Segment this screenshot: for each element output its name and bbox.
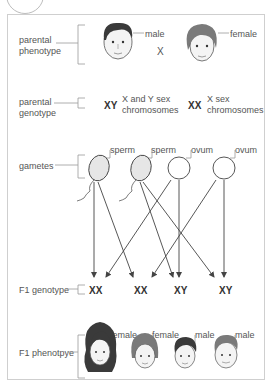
bracket (78, 98, 85, 108)
ovum-x-icon (213, 157, 235, 179)
bracket (78, 335, 85, 378)
male-parent-face-icon (104, 23, 132, 59)
f1-female-2-face-icon (131, 333, 158, 368)
bracket (78, 25, 85, 64)
inheritance-arrows (94, 180, 224, 277)
f1-male-2-face-icon (215, 335, 238, 368)
f1-female-1-face-icon (84, 322, 116, 372)
female-parent-face-icon (187, 24, 217, 61)
diagram-graphics (0, 0, 274, 389)
f1-male-1-face-icon (174, 337, 196, 368)
sperm-y-icon (128, 153, 154, 183)
ovum-x-icon (168, 157, 190, 179)
bracket (78, 285, 85, 294)
sperm-x-icon (86, 153, 112, 183)
bracket (78, 155, 85, 178)
